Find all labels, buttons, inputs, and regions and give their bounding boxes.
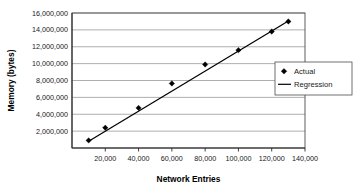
x-axis-tick-label: 60,000 bbox=[161, 154, 183, 163]
y-axis-title: Memory (bytes) bbox=[6, 49, 16, 111]
y-axis-tick-label: 6,000,000 bbox=[36, 93, 68, 102]
y-axis-tick-label: 2,000,000 bbox=[36, 127, 68, 136]
svg-text:Memory (bytes): Memory (bytes) bbox=[6, 49, 16, 111]
x-axis-tick-label: 120,000 bbox=[259, 154, 285, 163]
svg-text:Network Entries: Network Entries bbox=[157, 174, 221, 184]
x-axis-tick-label: 100,000 bbox=[225, 154, 251, 163]
y-axis-tick-label: 10,000,000 bbox=[32, 59, 68, 68]
legend-entry-label: Regression bbox=[294, 80, 332, 89]
x-axis-tick-label: 80,000 bbox=[194, 154, 216, 163]
x-axis-tick-label: 40,000 bbox=[128, 154, 150, 163]
legend-entry-label: Actual bbox=[294, 67, 315, 76]
y-axis-tick-label: 4,000,000 bbox=[36, 110, 68, 119]
y-axis-tick-label: 16,000,000 bbox=[32, 9, 68, 18]
chart-container: 2,000,0004,000,0006,000,0008,000,00010,0… bbox=[0, 0, 360, 192]
y-axis-tick-label: 8,000,000 bbox=[36, 76, 68, 85]
y-axis-tick-label: 12,000,000 bbox=[32, 42, 68, 51]
x-axis-tick-label: 140,000 bbox=[292, 154, 318, 163]
x-axis-tick-labels: 20,00040,00060,00080,000100,000120,00014… bbox=[94, 154, 318, 163]
x-axis-tick-label: 20,000 bbox=[94, 154, 116, 163]
memory-vs-network-entries-chart: 2,000,0004,000,0006,000,0008,000,00010,0… bbox=[0, 0, 360, 192]
x-axis-title: Network Entries bbox=[157, 174, 221, 184]
chart-legend: ActualRegression bbox=[275, 62, 352, 95]
y-axis-tick-label: 14,000,000 bbox=[32, 25, 68, 34]
y-axis-tick-labels: 2,000,0004,000,0006,000,0008,000,00010,0… bbox=[32, 9, 68, 136]
